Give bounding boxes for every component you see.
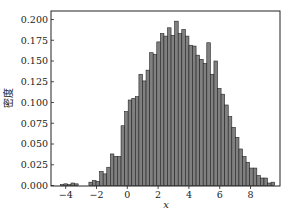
y-axis-label: 密度: [2, 88, 14, 108]
histogram-bar: [107, 167, 111, 185]
histogram-bar: [71, 183, 75, 185]
x-tick-label: 4: [186, 189, 192, 200]
histogram-bar: [135, 97, 139, 186]
y-axis-ticks: 0.0000.0250.0500.0750.1000.1250.1500.175…: [21, 14, 54, 191]
histogram-bar: [100, 171, 104, 185]
histogram-bar: [114, 156, 118, 185]
histogram-bar: [121, 126, 125, 186]
histogram-bar: [264, 178, 268, 185]
histogram-bar: [160, 34, 164, 186]
histogram-bar: [117, 156, 121, 185]
x-tick-label: 2: [155, 189, 161, 200]
y-tick-label: 0.175: [21, 35, 48, 46]
histogram-bar: [271, 182, 275, 185]
histogram-bar: [214, 61, 218, 186]
histogram-bar: [125, 112, 129, 186]
histogram-bar: [103, 174, 107, 186]
histogram-bar: [178, 34, 182, 186]
y-tick-label: 0.075: [21, 118, 48, 129]
histogram-bar: [64, 184, 68, 186]
histogram-bar: [210, 74, 214, 185]
x-tick-label: −2: [89, 189, 103, 200]
histogram-bar: [235, 137, 239, 185]
histogram-bar: [153, 54, 157, 185]
histogram-bar: [228, 117, 232, 186]
histogram-bar: [207, 43, 211, 186]
histogram-bar: [164, 36, 168, 185]
histogram-bar: [250, 168, 254, 185]
histogram-bar: [167, 28, 171, 186]
histogram-bar: [257, 176, 261, 186]
histogram-bar: [232, 127, 236, 185]
y-tick-label: 0.200: [21, 14, 48, 25]
histogram-bars: [60, 21, 274, 185]
y-tick-label: 0.050: [21, 138, 48, 149]
x-axis-label: x: [163, 199, 169, 210]
histogram-bar: [132, 98, 136, 185]
y-tick-label: 0.000: [21, 180, 48, 191]
histogram-bar: [253, 168, 257, 185]
histogram-bar: [150, 53, 154, 186]
histogram-bar: [239, 149, 243, 186]
histogram-bar: [60, 185, 64, 186]
histogram-bar: [92, 181, 96, 186]
x-tick-label: 8: [247, 189, 253, 200]
histogram-bar: [67, 185, 71, 186]
histogram-bar: [196, 55, 200, 185]
histogram-bar: [185, 36, 189, 185]
y-tick-label: 0.125: [21, 76, 48, 87]
histogram-bar: [243, 156, 247, 185]
histogram-bar: [203, 63, 207, 185]
histogram-bar: [157, 42, 161, 186]
histogram-bar: [128, 100, 132, 185]
histogram-bar: [200, 59, 204, 185]
histogram-bar: [221, 94, 225, 185]
x-tick-label: −4: [59, 189, 73, 200]
histogram-bar: [268, 183, 272, 185]
histogram-bar: [142, 81, 146, 186]
histogram-bar: [182, 29, 186, 185]
x-tick-label: 0: [124, 189, 130, 200]
y-tick-label: 0.150: [21, 55, 48, 66]
histogram-bar: [260, 178, 264, 185]
histogram-bar: [225, 105, 229, 186]
histogram-bar: [89, 182, 93, 185]
histogram-bar: [171, 35, 175, 185]
histogram-bar: [146, 70, 150, 185]
histogram-bar: [139, 74, 143, 185]
histogram-bar: [218, 88, 222, 185]
histogram-bar: [246, 162, 250, 185]
y-tick-label: 0.100: [21, 97, 48, 108]
histogram-bar: [175, 21, 179, 185]
histogram-bar: [110, 154, 114, 186]
histogram-chart: 0.0000.0250.0500.0750.1000.1250.1500.175…: [0, 0, 286, 215]
histogram-bar: [96, 181, 100, 185]
y-tick-label: 0.025: [21, 159, 48, 170]
histogram-bar: [75, 184, 79, 186]
histogram-bar: [193, 46, 197, 185]
x-tick-label: 6: [217, 189, 223, 200]
x-axis-ticks: −4−202468: [59, 186, 254, 200]
histogram-bar: [189, 45, 193, 185]
